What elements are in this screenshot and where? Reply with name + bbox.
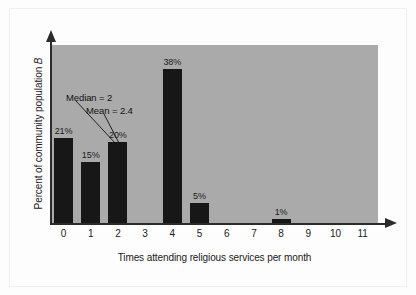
x-tick-label-4: 4: [162, 228, 182, 239]
bar-value-label-0: 21%: [50, 126, 78, 136]
annotation-median: Median = 2: [66, 92, 112, 103]
bar-2: [108, 142, 127, 223]
x-axis-arrow-icon: [385, 218, 397, 228]
bar-8: [272, 219, 291, 223]
x-tick-label-11: 11: [353, 228, 373, 239]
bar-1: [81, 162, 100, 223]
x-tick-label-2: 2: [108, 228, 128, 239]
bar-5: [190, 203, 209, 223]
bar-4: [163, 69, 182, 223]
x-tick-label-5: 5: [190, 228, 210, 239]
bar-value-label-1: 15%: [77, 150, 105, 160]
x-tick-label-0: 0: [54, 228, 74, 239]
x-tick-label-1: 1: [81, 228, 101, 239]
x-tick-label-10: 10: [326, 228, 346, 239]
annotation-mean: Mean = 2.4: [86, 105, 133, 116]
bar-value-label-4: 38%: [158, 57, 186, 67]
x-tick-label-7: 7: [244, 228, 264, 239]
bar-value-label-2: 20%: [104, 130, 132, 140]
figure-container: 21%15%20%38%5%1% 01234567891011 Median =…: [0, 0, 416, 295]
x-tick-label-9: 9: [298, 228, 318, 239]
x-axis-line: [50, 223, 386, 225]
bar-0: [54, 138, 73, 223]
bar-value-label-8: 1%: [267, 207, 295, 217]
y-axis-arrow-icon: [46, 30, 56, 42]
x-axis-title: Times attending religious services per m…: [51, 252, 378, 263]
y-axis-title: Percent of community population B: [33, 49, 44, 219]
y-axis-title-text: Percent of community population: [33, 64, 44, 209]
x-tick-label-3: 3: [135, 228, 155, 239]
x-tick-label-6: 6: [217, 228, 237, 239]
x-tick-label-8: 8: [271, 228, 291, 239]
y-axis-title-symbol: B: [33, 58, 44, 65]
bar-value-label-5: 5%: [186, 191, 214, 201]
